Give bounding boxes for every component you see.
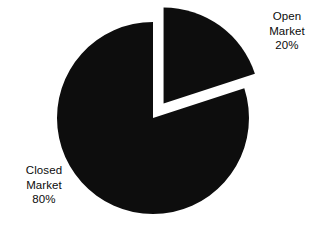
slice-label-open-market-name-line2: Market bbox=[249, 24, 325, 39]
slice-label-closed-market: Closed Market 80% bbox=[2, 163, 86, 207]
slice-label-open-market: Open Market 20% bbox=[249, 9, 325, 53]
slice-label-closed-market-value: 80% bbox=[2, 192, 86, 207]
slice-label-closed-market-name-line2: Market bbox=[2, 178, 86, 193]
slice-label-open-market-name-line1: Open bbox=[249, 9, 325, 24]
slice-label-open-market-value: 20% bbox=[249, 38, 325, 53]
pie-chart: Open Market 20% Closed Market 80% bbox=[0, 0, 327, 237]
slice-label-closed-market-name-line1: Closed bbox=[2, 163, 86, 178]
